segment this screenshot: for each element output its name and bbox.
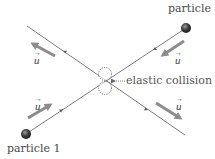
velocity-label-bottom-right: → u <box>176 101 182 112</box>
collision-circle-upper <box>99 68 112 81</box>
particle-1-ball <box>21 129 31 139</box>
vector-arrow-icon: → <box>34 50 41 57</box>
vector-arrow-icon: → <box>176 96 183 103</box>
velocity-label-bottom-left: → u <box>35 101 41 112</box>
vector-arrow-icon: → <box>35 96 42 103</box>
velocity-label-top-right: → u <box>175 55 181 66</box>
velocity-label-top-left: → u <box>34 55 40 66</box>
particle-1-label: particle 1 <box>7 143 60 154</box>
particle-2-label: particle 2 <box>168 3 215 14</box>
collision-circle-lower <box>99 82 112 95</box>
particle-2-ball <box>181 23 191 33</box>
vector-arrow-icon: → <box>175 50 182 57</box>
elastic-collision-label: elastic collision <box>126 75 212 86</box>
collision-point <box>99 68 112 95</box>
